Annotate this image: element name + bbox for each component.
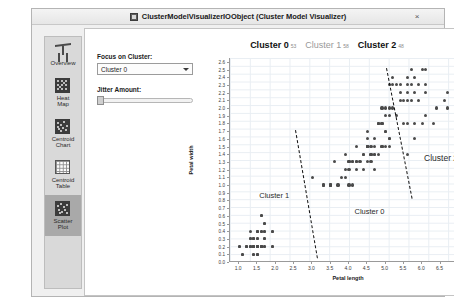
y-tick-label: 2.6 [211, 59, 225, 64]
jitter-amount-slider[interactable] [97, 96, 193, 105]
data-point [406, 153, 409, 156]
data-point [263, 222, 266, 225]
data-point [263, 245, 266, 248]
grid-glyph [55, 160, 70, 174]
y-tick-label: 1.5 [211, 144, 225, 149]
y-tick-label: 1.3 [211, 159, 225, 164]
boundary-cluster1-cluster0 [295, 130, 318, 259]
y-tick-label: 0.5 [211, 221, 225, 226]
x-tick-label: 2.5 [290, 265, 297, 271]
jitter-slider-track[interactable] [97, 98, 193, 103]
y-tick-label: 1.0 [211, 183, 225, 188]
x-tick-label: 1.0 [235, 265, 242, 271]
focus-cluster-select[interactable]: Cluster 0 [97, 63, 193, 75]
cluster-annotation: Cluster 2 [424, 153, 454, 163]
data-point [424, 114, 427, 117]
close-icon[interactable]: × [412, 12, 422, 22]
app-root: { "window": { "title": "ClusterModelVisu… [0, 0, 454, 307]
data-point [249, 245, 252, 248]
data-point [388, 114, 391, 117]
y-tick-label: 2.4 [211, 75, 225, 80]
sidebar-item-label: Centroid Chart [52, 136, 75, 149]
data-point [446, 106, 449, 109]
data-point [421, 122, 424, 125]
sidebar-item-label: Heat Map [57, 95, 70, 108]
data-point [369, 145, 372, 148]
cluster-tab-count: 48 [398, 43, 404, 49]
cluster-tab-2[interactable]: Cluster 248 [358, 40, 404, 50]
tile-glyph [55, 201, 70, 216]
cluster-tab-name: Cluster 1 [305, 40, 341, 50]
cluster-tab-name: Cluster 0 [250, 40, 289, 50]
cluster-tab-0[interactable]: Cluster 053 [250, 40, 296, 50]
sidebar-item-centroid-chart[interactable]: Centroid Chart [45, 113, 81, 154]
scatter-plot-icon [55, 201, 71, 216]
data-point [252, 253, 255, 256]
data-point [358, 160, 361, 163]
data-point [263, 230, 266, 233]
y-tick-label: 0.1 [211, 252, 225, 257]
sidebar-item-overview[interactable]: Overview [45, 37, 81, 72]
data-point [344, 168, 347, 171]
centroid-table-icon [55, 160, 71, 175]
x-tick-mark [348, 262, 349, 264]
scatter-plot: 0.00.10.20.30.40.50.60.70.80.91.01.11.21… [189, 54, 454, 292]
data-point [249, 230, 252, 233]
data-point [366, 130, 369, 133]
y-tick-label: 0.8 [211, 198, 225, 203]
data-point [406, 76, 409, 79]
data-point [366, 137, 369, 140]
sidebar-item-scatter-plot[interactable]: Scatter Plot [45, 195, 81, 236]
cluster-annotation: Cluster 1 [259, 191, 289, 200]
x-tick-label: 5.0 [381, 265, 388, 271]
cluster-tab-1[interactable]: Cluster 158 [305, 40, 349, 50]
data-point [391, 83, 394, 86]
x-tick-label: 2.0 [271, 265, 278, 271]
data-point [241, 253, 244, 256]
data-point [373, 153, 376, 156]
sidebar-item-label: Scatter Plot [53, 218, 72, 231]
data-point [424, 83, 427, 86]
data-point [347, 168, 350, 171]
y-tick-label: 0.0 [211, 260, 225, 265]
data-point [373, 137, 376, 140]
x-tick-mark [385, 262, 386, 264]
data-point [406, 91, 409, 94]
data-point [391, 76, 394, 79]
x-tick-label: 3.5 [326, 265, 333, 271]
data-point [351, 183, 354, 186]
y-tick-label: 2.5 [211, 67, 225, 72]
x-axis-label: Petal length [332, 275, 363, 281]
x-tick-mark [366, 262, 367, 264]
data-point [344, 153, 347, 156]
cluster-annotation: Cluster 0 [354, 207, 384, 216]
data-point [351, 160, 354, 163]
data-point [245, 245, 248, 248]
left-sidebar: OverviewHeat MapCentroid ChartCentroid T… [44, 36, 82, 289]
sidebar-item-heat-map[interactable]: Heat Map [45, 72, 81, 113]
sidebar-item-centroid-table[interactable]: Centroid Table [45, 154, 81, 195]
data-point [388, 145, 391, 148]
data-point [366, 145, 369, 148]
data-point [369, 160, 372, 163]
plot-area[interactable]: Cluster 1Cluster 0Cluster 2 [229, 58, 454, 262]
data-point [344, 176, 347, 179]
data-point [384, 114, 387, 117]
data-point [421, 68, 424, 71]
data-point [443, 99, 446, 102]
x-tick-label: 6.0 [418, 265, 425, 271]
app-window: ClusterModelVisualizerIOObject (Cluster … [31, 8, 445, 297]
jitter-slider-thumb[interactable] [97, 96, 104, 105]
y-tick-label: 0.4 [211, 229, 225, 234]
y-tick-mark [227, 262, 229, 263]
data-point [413, 122, 416, 125]
y-tick-label: 0.3 [211, 236, 225, 241]
x-tick-label: 6.5 [436, 265, 443, 271]
centroid-chart-icon [55, 119, 71, 134]
y-tick-label: 0.7 [211, 206, 225, 211]
x-tick-mark [238, 262, 239, 264]
data-point [362, 153, 365, 156]
data-point [410, 99, 413, 102]
data-point [446, 91, 449, 94]
x-tick-mark [256, 262, 257, 264]
